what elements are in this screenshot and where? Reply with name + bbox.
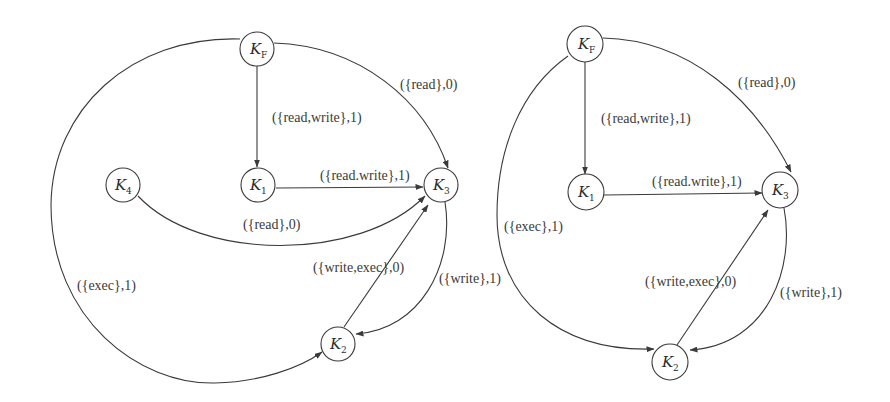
node-k2: K 2: [652, 344, 688, 380]
node-kf: K F: [240, 32, 274, 66]
edge-label-kf-k3: ({read},0): [400, 77, 458, 93]
node-k3: K 3: [424, 168, 458, 202]
svg-text:3: 3: [783, 191, 789, 201]
node-k1: K 1: [241, 168, 275, 202]
edge-label-k2-k3: ({write,exec},0): [645, 274, 737, 290]
edge-label-k3-k2: ({write},1): [439, 271, 501, 287]
edge-label-kf-k1: ({read,write},1): [272, 110, 362, 126]
edge-kf-k3: [603, 38, 791, 172]
svg-text:F: F: [261, 50, 267, 60]
svg-text:4: 4: [126, 186, 132, 196]
edge-k1-k3: [604, 193, 762, 195]
edge-label-k2-k3: ({write,exec},0): [313, 260, 405, 276]
edge-kf-k2: [51, 39, 322, 383]
node-k3: K 3: [762, 172, 798, 208]
left-diagram: K F K 1 K 2 K 3 K 4 ({read,write},1) ({r…: [51, 32, 501, 383]
edge-label-kf-k2: ({exec},1): [504, 219, 563, 235]
right-diagram: K F K 1 K 2 K 3 ({read,write},1) ({read}…: [497, 26, 842, 380]
svg-text:2: 2: [341, 345, 347, 355]
edge-label-kf-k1: ({read,write},1): [601, 111, 691, 127]
svg-text:F: F: [589, 45, 595, 55]
node-k2: K 2: [321, 327, 355, 361]
svg-text:1: 1: [589, 193, 595, 203]
node-k4: K 4: [106, 168, 140, 202]
edge-k1-k3: [276, 187, 423, 188]
edge-label-k4-k3: ({read},0): [243, 217, 301, 233]
edge-label-k3-k2: ({write},1): [780, 285, 842, 301]
svg-text:1: 1: [261, 186, 267, 196]
diagram-canvas: K F K 1 K 2 K 3 K 4 ({read,write},1) ({r…: [0, 0, 890, 402]
edge-label-kf-k3: ({read},0): [738, 75, 796, 91]
svg-text:3: 3: [444, 186, 450, 196]
node-kf: K F: [567, 26, 603, 62]
edge-label-k1-k3: ({read.write},1): [652, 174, 742, 190]
svg-text:2: 2: [673, 363, 679, 373]
node-k1: K 1: [568, 174, 604, 210]
edge-label-kf-k2: ({exec},1): [77, 278, 136, 294]
edge-kf-k3: [274, 43, 448, 168]
edge-label-k1-k3: ({read.write},1): [320, 168, 410, 184]
